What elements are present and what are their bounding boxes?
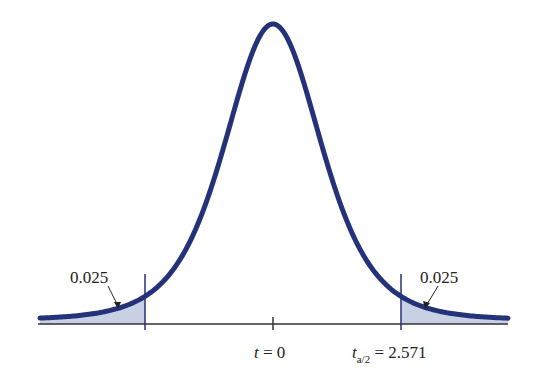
left-tail-area xyxy=(40,296,145,324)
t-distribution-chart: 0.025 0.025 t = 0 ta/2 = 2.571 xyxy=(0,0,540,386)
critical-value-label: ta/2 = 2.571 xyxy=(352,343,427,365)
center-label: t = 0 xyxy=(254,343,285,362)
left-tail-label: 0.025 xyxy=(70,268,108,287)
right-tail-label: 0.025 xyxy=(420,268,458,287)
